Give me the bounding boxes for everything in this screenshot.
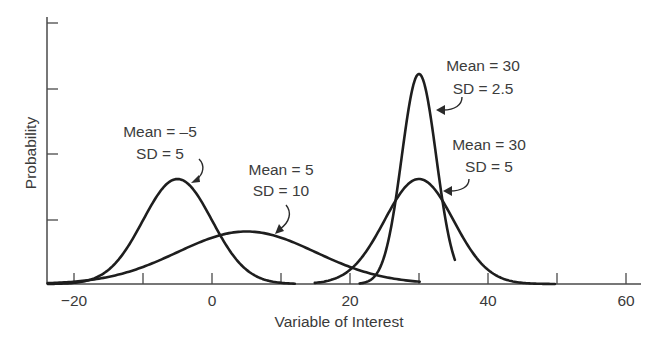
annotation-sd: SD = 10 [253, 182, 310, 199]
arrowhead-icon [275, 224, 284, 234]
annotation-sd: SD = 5 [465, 158, 513, 175]
annotation-sd: SD = 5 [136, 145, 184, 162]
distribution-curves [48, 74, 555, 284]
annotation-mean-30-sd2-5: Mean = 30 SD = 2.5 [436, 57, 520, 115]
arrowhead-icon [436, 105, 445, 115]
x-tick-label: 0 [208, 292, 217, 309]
annotation-mean: Mean = –5 [123, 123, 197, 140]
annotation-mean-5-sd10: Mean = 5 SD = 10 [248, 161, 313, 234]
annotation-arrow [280, 205, 289, 229]
x-tick-label: −20 [61, 292, 88, 309]
x-axis-title: Variable of Interest [275, 313, 405, 330]
curve-mean-30-sd-5 [315, 179, 555, 284]
annotation-mean-neg5-sd5: Mean = –5 SD = 5 [123, 123, 203, 183]
x-tick-label: 20 [341, 292, 359, 309]
arrowhead-icon [443, 186, 452, 196]
annotation-arrow [443, 97, 462, 110]
arrowhead-icon [191, 175, 200, 183]
annotation-mean: Mean = 5 [248, 161, 313, 178]
annotation-arrow [450, 179, 469, 191]
chart: −20 0 20 40 60 Variable of Interest Prob… [0, 0, 653, 340]
x-tick-label: 40 [479, 292, 497, 309]
annotation-sd: SD = 2.5 [453, 80, 514, 97]
y-axis [47, 17, 58, 284]
annotation-mean-30-sd5: Mean = 30 SD = 5 [443, 136, 526, 196]
y-axis-title: Probability [22, 117, 39, 190]
annotation-arrow [196, 159, 203, 180]
x-tick-label: 60 [617, 292, 635, 309]
curve-mean-30-sd-2-5 [360, 74, 455, 283]
annotation-mean: Mean = 30 [446, 57, 520, 74]
annotation-mean: Mean = 30 [452, 136, 526, 153]
x-ticks [74, 273, 626, 284]
